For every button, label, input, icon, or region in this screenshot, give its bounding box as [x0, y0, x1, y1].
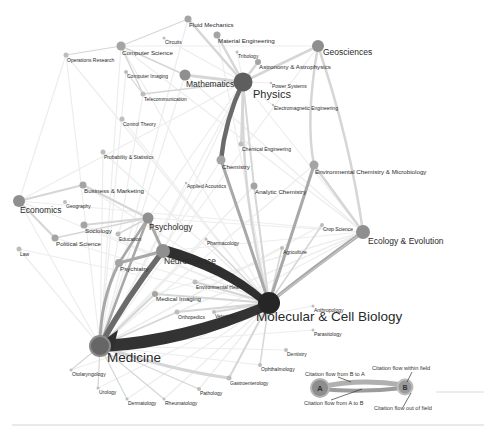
node-label: Gastroenterology	[230, 380, 269, 386]
node-label: Political Science	[56, 240, 102, 247]
node-label: Environmental Health	[196, 284, 244, 290]
node-analytic-chemistry: Analytic Chemistry	[251, 183, 308, 195]
node-urology: Urology	[97, 387, 117, 395]
node-crop-science: Crop Science	[320, 223, 353, 232]
node-label: Dentistry	[287, 351, 307, 357]
legend-node-b-label: B	[402, 384, 407, 391]
node-label: Parasitology	[314, 331, 342, 337]
node-label: Crop Science	[323, 226, 353, 232]
legend: A B Citation flow from B to A Citation f…	[304, 365, 484, 411]
citation-flow-map: Fluid MechanicsMaterial EngineeringCircu…	[0, 0, 493, 431]
legend-node-a-label: A	[317, 384, 323, 393]
node-probability-statistics: Probability & Statistics	[101, 150, 154, 160]
node-label: Rheumatology	[165, 400, 198, 406]
node-ophthalmology: Ophthalmology	[258, 363, 295, 372]
legend-flow-within: Citation flow within field	[372, 365, 430, 371]
node-label: Operations Research	[67, 57, 114, 63]
node-rheumatology: Rheumatology	[163, 398, 198, 406]
node-label: Law	[20, 251, 30, 257]
node-fluid-mechanics: Fluid Mechanics	[185, 16, 234, 28]
node-label: Dermatology	[128, 400, 157, 406]
legend-flow-a-to-b: Citation flow from A to B	[304, 400, 364, 406]
node-label: Circuits	[165, 39, 182, 45]
node-label: Electromagnetic Engineering	[274, 105, 338, 111]
node-label: Education	[119, 236, 141, 242]
node-label: Sociology	[85, 227, 113, 234]
node-label: Mathematics	[186, 79, 234, 89]
node-law: Law	[17, 247, 30, 257]
node-label: Molecular & Cell Biology	[256, 309, 403, 324]
node-label: Power Systems	[272, 83, 307, 89]
legend-flow-b-to-a: Citation flow from B to A	[305, 371, 365, 377]
node-political-science: Political Science	[52, 235, 102, 247]
node-label: Orthopedics	[178, 314, 205, 320]
node-parasitology: Parasitology	[312, 329, 343, 337]
node-geography: Geography	[63, 200, 91, 209]
node-label: Physics	[253, 88, 291, 100]
node-label: Ophthalmology	[261, 366, 295, 372]
node-label: Control Theory	[123, 121, 156, 127]
node-environmental-chemistry: Environmental Chemistry & Microbiology	[310, 161, 428, 175]
node-label: Material Engineering	[218, 37, 275, 44]
node-label: Geography	[66, 203, 91, 209]
node-circle	[234, 73, 253, 92]
node-label: Chemistry	[222, 163, 251, 170]
node-pathology: Pathology	[197, 387, 223, 396]
node-label: Probability & Statistics	[104, 154, 154, 160]
node-label: Medical Imaging	[156, 295, 202, 302]
node-ecology-evolution: Ecology & Evolution	[356, 225, 444, 246]
node-label: Computer Science	[122, 49, 173, 56]
node-economics: Economics	[13, 195, 62, 215]
node-dermatology: Dermatology	[126, 398, 157, 406]
node-label: Agriculture	[283, 249, 307, 255]
node-label: Applied Acoustics	[187, 183, 227, 189]
node-label: Veterinary	[215, 313, 238, 319]
node-label: Economics	[20, 205, 62, 215]
legend-flow-out: Citation flow out of field	[374, 405, 432, 411]
legend-flow-b-to-a-edge	[320, 382, 403, 387]
node-label: Medicine	[107, 350, 161, 365]
node-label: Chemical Engineering	[242, 146, 291, 152]
node-computer-imaging: Computer Imaging	[124, 70, 168, 79]
node-applied-acoustics: Applied Acoustics	[185, 182, 227, 189]
node-circuits: Circuits	[163, 37, 183, 45]
node-label: Tribology	[238, 53, 259, 59]
node-agriculture: Agriculture	[280, 246, 307, 255]
node-dentistry: Dentistry	[284, 348, 307, 357]
node-label: Telecommunication	[144, 96, 187, 102]
node-label: Geosciences	[323, 47, 372, 57]
node-tribology: Tribology	[236, 51, 259, 59]
node-control-theory: Control Theory	[120, 117, 157, 127]
node-label: Neuroscience	[164, 256, 216, 266]
node-pharmacology: Pharmacology	[205, 238, 240, 246]
node-power-systems: Power Systems	[270, 82, 307, 89]
node-label: Business & Marketing	[84, 187, 144, 194]
node-label: Ecology & Evolution	[368, 236, 444, 246]
node-label: Analytic Chemistry	[255, 188, 307, 195]
node-electromagnetic-engineering: Electromagnetic Engineering	[272, 104, 338, 111]
node-label: Pharmacology	[207, 240, 239, 246]
node-label: Environmental Chemistry & Microbiology	[315, 168, 427, 175]
node-label: Urology	[99, 389, 117, 395]
node-label: Psychology	[149, 222, 193, 232]
node-astronomy: Astronomy & Astrophysics	[255, 59, 331, 70]
node-material-engineering: Material Engineering	[214, 32, 276, 44]
node-label: Psychiatry	[120, 265, 149, 272]
node-gastroenterology: Gastroenterology	[227, 376, 269, 386]
node-label: Otolaryngology	[72, 371, 106, 377]
node-label: Pathology	[200, 390, 223, 396]
node-otolaryngology: Otolaryngology	[70, 369, 107, 377]
node-label: Fluid Mechanics	[189, 21, 234, 28]
node-label: Computer Imaging	[127, 73, 168, 79]
node-label: Astronomy & Astrophysics	[259, 63, 331, 70]
